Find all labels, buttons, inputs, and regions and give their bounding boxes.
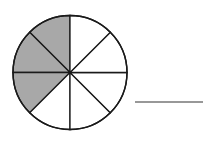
fraction-diagram xyxy=(0,0,213,141)
center-point xyxy=(68,71,71,74)
fraction-circle xyxy=(13,16,127,130)
